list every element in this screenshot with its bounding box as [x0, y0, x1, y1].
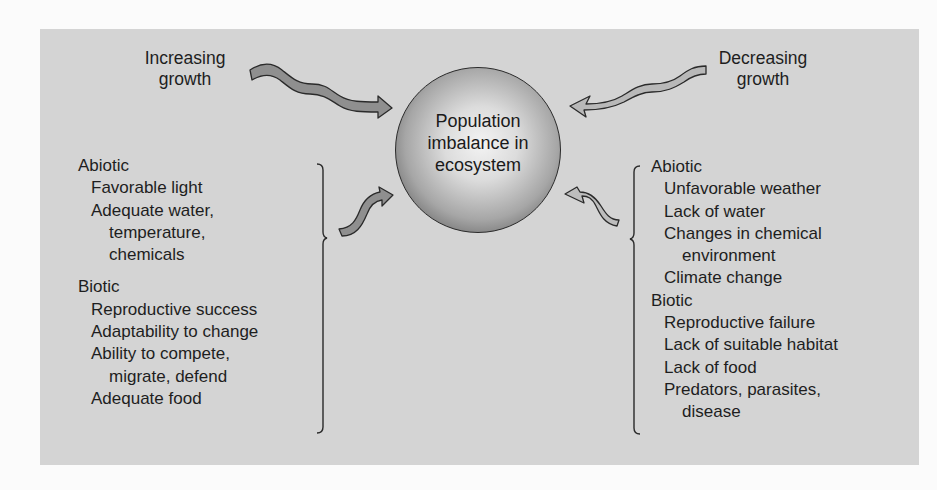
abiotic-heading: Abiotic — [651, 156, 838, 178]
factor-item: Predators, parasites, — [651, 379, 838, 401]
factor-item: Climate change — [651, 267, 838, 289]
factor-item: Lack of water — [651, 201, 838, 223]
factor-item: Reproductive failure — [651, 312, 838, 334]
factor-item: Changes in chemical — [651, 223, 838, 245]
biotic-heading: Biotic — [651, 290, 838, 312]
factor-item-continued: environment — [651, 245, 838, 267]
factor-item: Lack of suitable habitat — [651, 334, 838, 356]
factor-item-continued: disease — [651, 401, 838, 423]
decreasing-factors-list: Abiotic Unfavorable weather Lack of wate… — [651, 156, 838, 424]
factor-item: Lack of food — [651, 357, 838, 379]
factor-item: Unfavorable weather — [651, 178, 838, 200]
